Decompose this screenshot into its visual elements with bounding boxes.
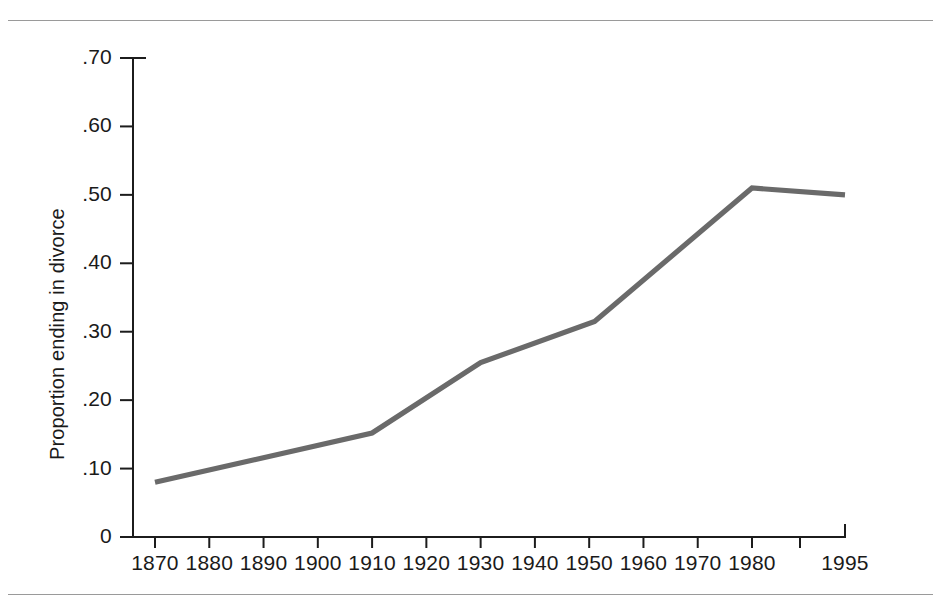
y-axis-tick-label: 0 [42, 524, 112, 548]
y-axis-tick-label: .50 [42, 182, 112, 206]
x-axis-tick-label: 1995 [800, 551, 890, 575]
chart-series-group [155, 188, 845, 482]
x-axis-tick-label: 1980 [707, 551, 797, 575]
x-axis-ticks [155, 537, 800, 548]
figure-container: Proportion ending in divorce 0.10.20.30.… [0, 0, 941, 607]
y-axis-ticks [120, 58, 133, 537]
y-axis-tick-label: .20 [42, 387, 112, 411]
data-series-line [155, 188, 845, 482]
chart-plot-area [0, 0, 941, 607]
y-axis-tick-label: .10 [42, 456, 112, 480]
y-axis-tick-label: .40 [42, 250, 112, 274]
y-axis-tick-label: .60 [42, 113, 112, 137]
y-axis-tick-label: .30 [42, 319, 112, 343]
y-axis-tick-label: .70 [42, 45, 112, 69]
